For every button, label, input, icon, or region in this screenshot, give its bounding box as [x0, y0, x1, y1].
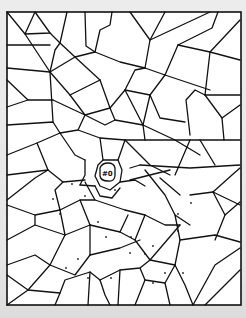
- frame-border: [7, 12, 241, 305]
- coloring-page: #0: [0, 0, 246, 318]
- face-label: #0: [102, 170, 113, 178]
- mosaic-drawing: #0: [0, 0, 246, 318]
